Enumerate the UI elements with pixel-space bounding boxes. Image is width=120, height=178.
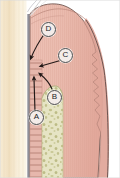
label-c[interactable]: C bbox=[58, 48, 73, 63]
periodontal-diagram: A B C D bbox=[0, 0, 120, 178]
label-d[interactable]: D bbox=[41, 22, 56, 37]
label-b[interactable]: B bbox=[47, 90, 62, 105]
cementum-and-sulcus bbox=[27, 0, 31, 178]
diagram-canvas bbox=[0, 0, 120, 178]
label-a[interactable]: A bbox=[29, 110, 44, 125]
tooth-region bbox=[0, 0, 27, 178]
